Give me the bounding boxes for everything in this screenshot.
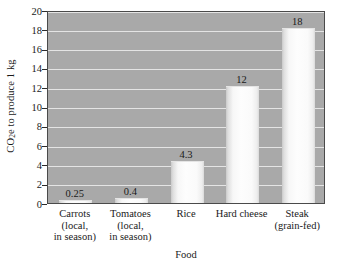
bar-chart-figure: CO2e to produce 1 kg 02468101214161820 0…	[0, 0, 340, 269]
y-axis-tick-label: 10	[16, 102, 42, 113]
y-axis-tick-label: 18	[16, 25, 42, 36]
y-axis-tick-labels: 02468101214161820	[16, 6, 42, 210]
x-axis-tick-label-line: Steak	[261, 208, 333, 220]
y-axis-tick-label: 16	[16, 44, 42, 55]
x-axis-tick-label-line: in season)	[94, 231, 166, 243]
x-axis-tick-label-line: (grain-fed)	[261, 220, 333, 232]
x-axis-tick-label-line: (local,	[94, 220, 166, 232]
bar	[226, 86, 259, 203]
y-axis-tick-label: 8	[16, 121, 42, 132]
y-axis-tick-label: 12	[16, 83, 42, 94]
y-axis-tick-mark	[42, 204, 47, 205]
x-axis-title: Food	[47, 249, 325, 260]
x-axis-tick-label: Steak(grain-fed)	[261, 208, 333, 231]
bar	[115, 198, 148, 203]
y-axis-tick-label: 14	[16, 63, 42, 74]
bar-value-label: 4.3	[156, 149, 216, 161]
y-axis-tick-label: 20	[16, 6, 42, 17]
y-axis-tick-label: 4	[16, 160, 42, 171]
bar	[171, 161, 204, 203]
bar-value-label: 0.25	[45, 188, 105, 200]
y-axis-tick-label: 2	[16, 179, 42, 190]
bar	[282, 28, 315, 203]
plot-area	[47, 11, 325, 204]
y-axis-tick-label: 6	[16, 141, 42, 152]
gridline	[48, 12, 324, 13]
y-axis-title-prefix: CO	[5, 138, 16, 153]
y-axis-title-suffix: e to produce 1 kg	[5, 59, 16, 134]
bar-value-label: 0.4	[100, 186, 160, 198]
bar	[59, 200, 92, 203]
bar-value-label: 18	[267, 16, 327, 28]
bar-value-label: 12	[212, 74, 272, 86]
